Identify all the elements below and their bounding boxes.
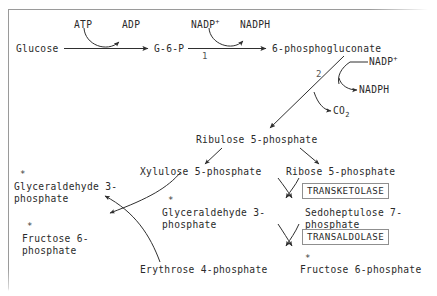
arrow-co2-out-step2 — [314, 92, 331, 111]
arrow-ta-left-down — [278, 224, 292, 246]
arrow-nadp-to-nadph-step1 — [209, 28, 243, 46]
label-nadp-plus-top: NADP+ — [191, 19, 220, 31]
label-glucose: Glucose — [16, 43, 59, 55]
label-ribulose-5-phosphate: Ribulose 5-phosphate — [196, 134, 318, 146]
pathway-diagram: Glucose G-6-P 6-phosphogluconate ATP ADP… — [0, 0, 437, 296]
label-co2-text: CO — [333, 105, 345, 116]
arrow-ta-right-down — [286, 224, 299, 246]
label-g6p: G-6-P — [154, 43, 184, 55]
label-gap-left-line1: Glyceraldehyde 3- — [14, 181, 117, 192]
label-nadp-plus-top-text: NADP — [191, 19, 215, 30]
label-glyceraldehyde-3-phosphate-left: Glyceraldehyde 3-phosphate — [14, 181, 117, 204]
label-f6p-left-line2: phosphate — [22, 245, 77, 256]
arrow-tk-right-down — [286, 178, 299, 198]
label-step-2: 2 — [316, 70, 321, 79]
label-nadph-top: NADPH — [240, 19, 270, 31]
label-nadp-plus-side-charge: + — [393, 55, 398, 63]
label-gap-left-line2: phosphate — [14, 193, 69, 204]
label-gap-mid-line1: Glyceraldehyde 3- — [162, 207, 265, 218]
label-step-1: 1 — [202, 52, 207, 61]
enzyme-box-transaldolase: TRANSALDOLASE — [302, 229, 389, 245]
asterisk-gap-left: * — [20, 170, 25, 179]
label-nadp-plus-side-text: NADP — [369, 56, 393, 67]
label-nadp-plus-side: NADP+ — [369, 56, 398, 68]
label-nadp-plus-top-charge: + — [215, 18, 220, 26]
label-gap-mid-line2: phosphate — [162, 219, 217, 230]
label-sedoheptulose-line1: Sedoheptulose 7- — [305, 207, 402, 218]
asterisk-gap-mid: * — [168, 196, 173, 205]
arrow-ribulose-to-ribose — [300, 148, 319, 164]
label-erythrose-4-phosphate: Erythrose 4-phosphate — [140, 264, 268, 276]
label-fructose-6-phosphate-right: Fructose 6-phosphate — [300, 264, 422, 276]
arrow-atp-to-adp — [84, 28, 119, 47]
label-ribose-5-phosphate: Ribose 5-phosphate — [286, 166, 395, 178]
label-xylulose-5-phosphate: Xylulose 5-phosphate — [140, 166, 262, 178]
enzyme-box-transketolase: TRANSKETOLASE — [302, 183, 389, 199]
label-co2-subscript: 2 — [345, 111, 350, 119]
asterisk-f6p-left: * — [27, 222, 32, 231]
label-f6p-left-line1: Fructose 6- — [22, 233, 89, 244]
label-adp: ADP — [122, 19, 140, 31]
label-6-phosphogluconate: 6-phosphogluconate — [272, 43, 381, 55]
arrow-nadph-out-step2 — [339, 78, 357, 90]
arrow-ribulose-to-xylulose — [205, 148, 222, 164]
label-nadph-side: NADPH — [359, 84, 389, 96]
asterisk-f6p-right: * — [305, 254, 310, 263]
arrow-6pg-to-ribulose5p — [270, 56, 344, 128]
label-sedoheptulose-line2: phosphate — [305, 219, 360, 230]
label-co2: CO2 — [333, 105, 350, 117]
arrow-tk-left-down — [278, 178, 292, 198]
arrow-erythrose-to-gap — [105, 196, 160, 262]
label-fructose-6-phosphate-left: Fructose 6-phosphate — [22, 233, 89, 256]
label-sedoheptulose-7-phosphate: Sedoheptulose 7-phosphate — [305, 207, 402, 230]
label-atp: ATP — [74, 19, 92, 31]
label-glyceraldehyde-3-phosphate-mid: Glyceraldehyde 3-phosphate — [162, 207, 265, 230]
